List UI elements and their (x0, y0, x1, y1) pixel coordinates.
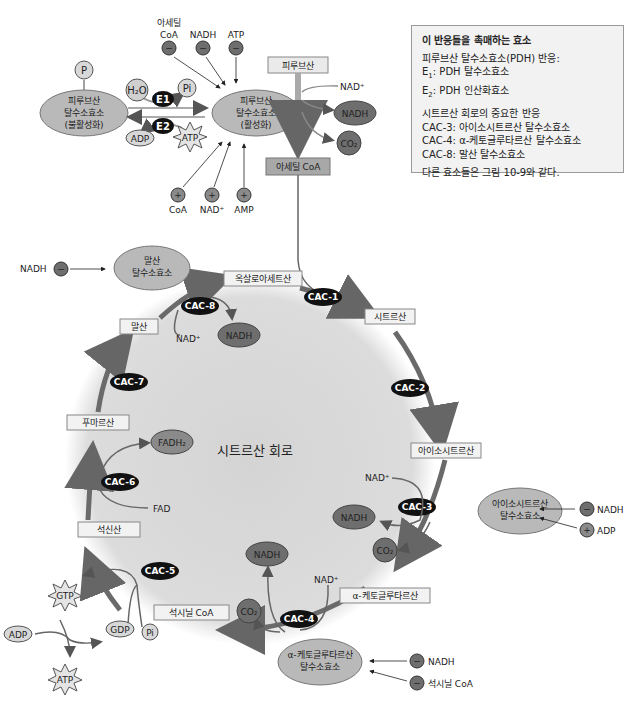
activator-badges: + + + (171, 188, 251, 202)
svg-text:CO₂: CO₂ (341, 139, 358, 149)
svg-text:NAD⁺: NAD⁺ (365, 473, 390, 483)
inhibitor-badges: − − − (162, 41, 243, 55)
legend-cac8: CAC-8: 말산 탈수소효소 (422, 148, 613, 162)
intermediate-citrate: 시트르산 (365, 309, 415, 324)
intermediate-malate: 말산 (120, 319, 158, 334)
intermediate-isocitrate: 아이소시트르산 (411, 443, 481, 458)
svg-text:탈수소효소: 탈수소효소 (500, 511, 540, 521)
svg-text:CAC-1: CAC-1 (308, 292, 338, 302)
svg-text:NAD⁺: NAD⁺ (176, 334, 201, 344)
legend-e1: E1: PDH 탈수소효소 (422, 65, 613, 84)
svg-text:CAC-5: CAC-5 (145, 566, 175, 576)
svg-text:GDP: GDP (110, 625, 130, 635)
svg-text:CAC-8: CAC-8 (185, 301, 215, 311)
svg-text:CAC-3: CAC-3 (402, 502, 432, 512)
intermediate-akg: α-케토글루타르산 (340, 588, 430, 603)
legend-pdh-heading: 피루브산 탈수소효소(PDH) 반응: (422, 52, 613, 66)
svg-text:CoA: CoA (160, 30, 179, 40)
legend-cac3: CAC-3: 아이소시트르산 탈수소효소 (422, 121, 613, 135)
svg-text:아세틸: 아세틸 (157, 18, 181, 28)
svg-text:−: − (165, 43, 173, 53)
svg-text:−: − (199, 43, 207, 53)
intermediate-oxaloacetate: 옥살로아세트산 (224, 271, 302, 286)
svg-text:CAC-4: CAC-4 (284, 614, 314, 624)
enzyme-legend: 이 반응들을 촉매하는 효소 피루브산 탈수소효소(PDH) 반응: E1: P… (411, 25, 624, 173)
svg-text:H₂O: H₂O (127, 85, 147, 96)
svg-text:NAD⁺: NAD⁺ (200, 205, 225, 215)
svg-text:(활성화): (활성화) (240, 119, 271, 130)
svg-text:+: + (174, 190, 182, 200)
svg-text:탈수소효소: 탈수소효소 (132, 268, 172, 278)
svg-text:+: + (208, 190, 216, 200)
svg-text:NADH: NADH (190, 30, 217, 40)
svg-text:석시닐 CoA: 석시닐 CoA (428, 679, 474, 689)
svg-text:(불활성화): (불활성화) (64, 119, 103, 130)
svg-text:옥살로아세트산: 옥살로아세트산 (235, 274, 291, 284)
svg-text:ATP: ATP (228, 30, 245, 40)
svg-text:α-케토글루타르산: α-케토글루타르산 (287, 650, 352, 660)
intermediate-succinate: 석신산 (78, 522, 140, 537)
svg-text:탈수소효소: 탈수소효소 (300, 662, 340, 672)
legend-cac-heading: 시트르산 회로의 중요한 반응 (422, 107, 613, 121)
svg-text:푸마르산: 푸마르산 (82, 418, 114, 428)
svg-text:탈수소효소: 탈수소효소 (236, 108, 276, 118)
svg-text:CAC-6: CAC-6 (105, 477, 135, 487)
intermediate-fumarate: 푸마르산 (67, 415, 129, 430)
svg-text:−: − (413, 678, 421, 688)
svg-text:FAD: FAD (153, 504, 171, 514)
svg-text:아이소시트르산: 아이소시트르산 (418, 446, 474, 456)
svg-text:시트르산: 시트르산 (374, 312, 406, 322)
svg-text:ATP: ATP (57, 675, 74, 685)
svg-text:석신산: 석신산 (97, 525, 121, 535)
legend-footer: 다른 효소들은 그림 10-9와 같다. (422, 166, 613, 180)
svg-text:말산: 말산 (131, 321, 147, 332)
intermediate-succinyl-coa: 석시닐 CoA (154, 605, 229, 620)
svg-text:CO₂: CO₂ (377, 546, 394, 556)
svg-text:NADH: NADH (341, 513, 368, 523)
svg-text:Pi: Pi (146, 628, 154, 638)
svg-text:+: + (583, 525, 591, 535)
svg-text:ADP: ADP (597, 526, 616, 536)
svg-text:−: − (413, 656, 421, 666)
legend-title: 이 반응들을 촉매하는 효소 (422, 34, 613, 48)
svg-text:NADH: NADH (342, 109, 369, 119)
svg-text:−: − (232, 43, 240, 53)
svg-text:ATP: ATP (182, 133, 199, 143)
svg-text:말산: 말산 (144, 255, 160, 266)
svg-text:ADP: ADP (9, 630, 28, 640)
svg-text:NAD⁺: NAD⁺ (340, 82, 365, 92)
svg-text:α-케토글루타르산: α-케토글루타르산 (352, 591, 417, 601)
cycle-title: 시트르산 회로 (217, 443, 293, 458)
svg-text:CAC-7: CAC-7 (114, 377, 144, 387)
svg-text:아세틸 CoA: 아세틸 CoA (276, 162, 322, 172)
svg-text:Pi: Pi (183, 83, 192, 94)
legend-e2: E2: PDH 인산화효소 (422, 84, 613, 103)
svg-text:AMP: AMP (234, 205, 254, 215)
svg-text:GTP: GTP (56, 591, 74, 601)
svg-text:E2: E2 (156, 121, 170, 132)
svg-text:NADH: NADH (428, 657, 455, 667)
svg-text:NADH: NADH (254, 550, 281, 560)
svg-text:NAD⁺: NAD⁺ (314, 575, 339, 585)
svg-text:NADH: NADH (226, 331, 253, 341)
svg-text:탈수소효소: 탈수소효소 (64, 108, 104, 118)
svg-text:NADH: NADH (20, 264, 47, 274)
phosphate-label: P (81, 65, 87, 76)
svg-text:NADH: NADH (597, 505, 624, 515)
svg-text:ADP: ADP (131, 134, 150, 144)
pdh-inactive-label: 피루브산 (68, 96, 100, 106)
legend-cac4: CAC-4: α-케토글루타르산 탈수소효소 (422, 134, 613, 148)
svg-text:CAC-2: CAC-2 (395, 383, 425, 393)
svg-text:+: + (240, 190, 248, 200)
svg-text:석시닐 CoA: 석시닐 CoA (169, 608, 215, 618)
svg-text:아이소시트르산: 아이소시트르산 (492, 499, 548, 509)
svg-text:−: − (57, 264, 65, 274)
svg-text:CoA: CoA (169, 205, 188, 215)
svg-text:E1: E1 (156, 94, 170, 105)
svg-text:피루브산: 피루브산 (282, 61, 314, 71)
svg-text:CO₂: CO₂ (241, 607, 258, 617)
pdh-active-label: 피루브산 (240, 96, 272, 106)
svg-text:−: − (583, 504, 591, 514)
svg-text:FADH₂: FADH₂ (158, 438, 186, 448)
